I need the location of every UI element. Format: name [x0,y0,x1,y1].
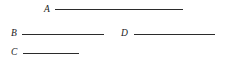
segment-c: C [0,0,227,65]
line-segment-figure: A B D C [0,0,227,65]
segment-label-c: C [11,48,17,58]
segment-line-c [23,53,79,54]
